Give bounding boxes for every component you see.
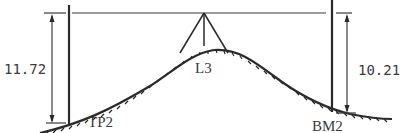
- instrument-label: L3: [195, 61, 212, 76]
- foresight-dimension: [336, 14, 356, 113]
- station-tp2-label: TP2: [88, 115, 113, 130]
- foresight-reading: 10.21: [358, 63, 400, 77]
- level-instrument-tripod: [180, 13, 228, 53]
- backsight-dimension: [46, 14, 66, 123]
- station-bm2-label: BM2: [312, 119, 343, 133]
- leveling-diagram: 11.72 L3 10.21 TP2 BM2: [0, 0, 408, 133]
- backsight-reading: 11.72: [4, 62, 46, 76]
